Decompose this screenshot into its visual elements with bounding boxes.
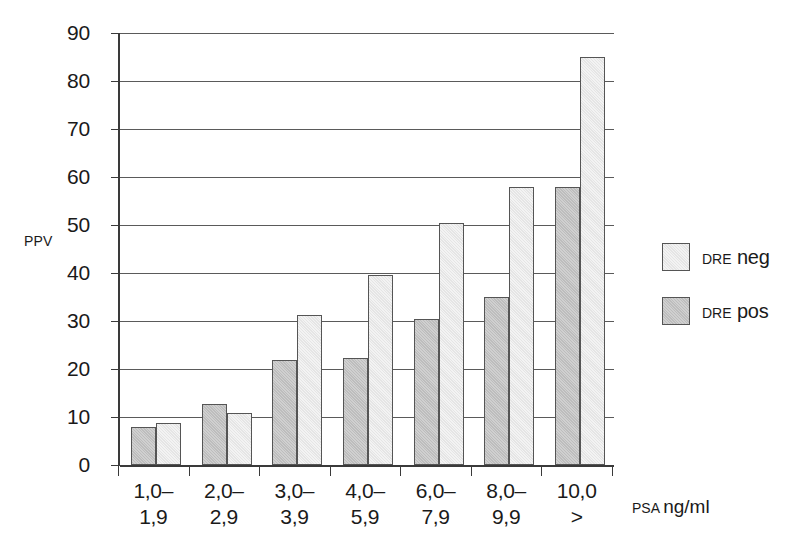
y-axis-tick-label: 80 bbox=[67, 70, 90, 91]
bar-pos bbox=[555, 187, 580, 465]
x-axis-category-label-line: 8,0– bbox=[471, 478, 542, 504]
x-axis-title-prefix: PSA bbox=[632, 500, 659, 516]
bar-pos bbox=[484, 297, 509, 465]
bar-neg bbox=[439, 223, 464, 465]
x-axis-tick bbox=[118, 465, 119, 476]
legend-label-prefix: DRE bbox=[702, 251, 732, 267]
x-axis-category-label-line: 2,0– bbox=[189, 478, 260, 504]
legend: DRE negDRE pos bbox=[662, 243, 770, 351]
x-axis-category-label-line: 3,9 bbox=[259, 504, 330, 530]
x-axis-category-label-line: 6,0– bbox=[400, 478, 471, 504]
bar-neg bbox=[227, 413, 252, 465]
x-axis-category-label-line: 7,9 bbox=[400, 504, 471, 530]
bar-pos bbox=[131, 427, 156, 465]
y-axis-tick bbox=[111, 81, 120, 82]
x-axis-title: PSA ng/ml bbox=[632, 496, 710, 518]
y-axis-tick bbox=[111, 225, 120, 226]
y-axis-tick bbox=[111, 273, 120, 274]
bar-neg bbox=[156, 423, 181, 465]
y-axis-tick-label: 50 bbox=[67, 214, 90, 235]
y-axis-tick-label: 20 bbox=[67, 358, 90, 379]
legend-label: DRE pos bbox=[702, 300, 769, 323]
y-axis-tick-label: 60 bbox=[67, 166, 90, 187]
y-axis-tick-label: 70 bbox=[67, 118, 90, 139]
chart-canvas: PPV 0102030405060708090 1,0–1,92,0–2,93,… bbox=[0, 0, 812, 541]
legend-item-pos[interactable]: DRE pos bbox=[662, 297, 770, 325]
x-axis-tick bbox=[471, 465, 472, 476]
y-axis-tick bbox=[111, 33, 120, 34]
y-axis-tick-label: 30 bbox=[67, 310, 90, 331]
legend-label-prefix: DRE bbox=[702, 305, 732, 321]
bar-neg bbox=[368, 275, 393, 465]
gridline bbox=[120, 225, 614, 226]
legend-swatch-neg bbox=[662, 243, 690, 271]
bar-pos bbox=[202, 404, 227, 465]
legend-item-neg[interactable]: DRE neg bbox=[662, 243, 770, 271]
bar-neg bbox=[297, 315, 322, 465]
y-axis-tick bbox=[111, 177, 120, 178]
gridline bbox=[120, 81, 614, 82]
x-axis-category-label-line: 3,0– bbox=[259, 478, 330, 504]
gridline bbox=[120, 273, 614, 274]
x-axis-category-label-line: 10,0 bbox=[541, 478, 612, 504]
x-axis-category-label-line: 5,9 bbox=[330, 504, 401, 530]
x-axis-tick bbox=[259, 465, 260, 476]
x-axis-tick bbox=[400, 465, 401, 476]
gridline bbox=[120, 33, 614, 34]
y-axis-tick-label: 40 bbox=[67, 262, 90, 283]
x-axis-tick bbox=[612, 465, 613, 476]
x-axis-category-label-line: 4,0– bbox=[330, 478, 401, 504]
legend-label: DRE neg bbox=[702, 246, 770, 269]
y-axis-tick bbox=[111, 321, 120, 322]
x-axis-tick bbox=[330, 465, 331, 476]
gridline bbox=[120, 177, 614, 178]
bar-pos bbox=[414, 319, 439, 465]
bar-pos bbox=[272, 360, 297, 465]
bar-pos bbox=[343, 358, 368, 465]
x-axis-category-label-line: 9,9 bbox=[471, 504, 542, 530]
x-axis-category-label: 1,0–1,9 bbox=[118, 478, 189, 530]
y-axis-tick-label: 10 bbox=[67, 406, 90, 427]
x-axis-title-unit: ng/ml bbox=[663, 496, 709, 517]
x-axis-category-label-line: 1,9 bbox=[118, 504, 189, 530]
bar-neg bbox=[580, 57, 605, 465]
y-axis-tick-label: 0 bbox=[79, 454, 90, 475]
y-axis-tick-labels: 0102030405060708090 bbox=[0, 33, 108, 465]
y-axis-tick bbox=[111, 129, 120, 130]
gridline bbox=[120, 129, 614, 130]
y-axis-tick-label: 90 bbox=[67, 22, 90, 43]
x-axis-category-label: 4,0–5,9 bbox=[330, 478, 401, 530]
x-axis-category-label: 10,0> bbox=[541, 478, 612, 530]
x-axis-category-label-line: 1,0– bbox=[118, 478, 189, 504]
x-axis-category-label: 2,0–2,9 bbox=[189, 478, 260, 530]
x-axis-tick bbox=[541, 465, 542, 476]
x-axis-category-label-line: > bbox=[541, 504, 612, 530]
x-axis-tick bbox=[189, 465, 190, 476]
x-axis-category-label: 3,0–3,9 bbox=[259, 478, 330, 530]
gridline bbox=[120, 321, 614, 322]
legend-label-value: pos bbox=[732, 300, 769, 322]
plot-area bbox=[118, 33, 612, 465]
x-axis-ticks bbox=[118, 465, 614, 477]
y-axis-tick bbox=[111, 369, 120, 370]
x-axis-category-label-line: 2,9 bbox=[189, 504, 260, 530]
x-axis-category-labels: 1,0–1,92,0–2,93,0–3,94,0–5,96,0–7,98,0–9… bbox=[118, 478, 614, 534]
legend-swatch-pos bbox=[662, 297, 690, 325]
x-axis-category-label: 6,0–7,9 bbox=[400, 478, 471, 530]
bar-neg bbox=[509, 187, 534, 465]
y-axis-tick bbox=[111, 417, 120, 418]
x-axis-category-label: 8,0–9,9 bbox=[471, 478, 542, 530]
legend-label-value: neg bbox=[732, 246, 770, 268]
